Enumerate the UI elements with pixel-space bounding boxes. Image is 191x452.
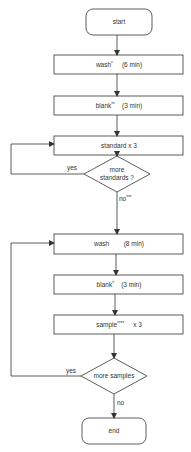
no-label-1: no*** — [119, 196, 132, 203]
blank-2-label: blank* (3 min) — [97, 282, 142, 289]
more-samples-label: more samples — [94, 373, 135, 380]
blank-2-text: blank — [97, 281, 113, 288]
yes-label-2: yes — [66, 368, 76, 375]
more-standards-line2: standards ? — [100, 174, 134, 182]
blank-2-mark: * — [112, 281, 114, 286]
no-label-2: no — [117, 400, 124, 407]
sample-time: x 3 — [133, 321, 142, 328]
loop-yes-samples — [11, 243, 81, 376]
sample-text: sample — [96, 321, 117, 328]
sample-mark: **** — [117, 321, 124, 326]
standard-label: standard x 3 — [101, 143, 137, 150]
no-1-mark: *** — [126, 195, 131, 200]
wash-2-time: (8 min) — [124, 240, 144, 247]
wash-1-text: wash — [96, 61, 111, 68]
start-label: start — [113, 19, 126, 26]
wash-1-mark: * — [111, 61, 113, 66]
wash-1-label: wash* (6 min) — [96, 62, 142, 69]
blank-1-label: blank** (3 min) — [96, 103, 143, 110]
wash-2-text: wash — [94, 240, 109, 247]
more-standards-label: morestandards ? — [100, 166, 134, 182]
yes-label-1: yes — [67, 165, 77, 172]
blank-1-mark: ** — [111, 102, 115, 107]
blank-1-text: blank — [96, 102, 112, 109]
more-standards-line1: more — [100, 166, 134, 174]
wash-1-time: (6 min) — [122, 61, 142, 68]
blank-1-time: (3 min) — [122, 102, 142, 109]
end-label: end — [109, 428, 120, 435]
wash-2-label: wash (8 min) — [94, 241, 144, 248]
blank-2-time: (3 min) — [121, 281, 141, 288]
sample-label: sample**** x 3 — [96, 322, 142, 329]
